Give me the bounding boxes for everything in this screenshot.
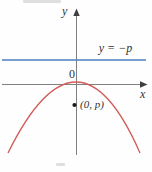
parabola-directrix-figure: y x 0 y = −p (0, p): [0, 0, 152, 172]
cropped-text-fragment-bottom: [56, 163, 65, 166]
focus-point-dot: [72, 103, 76, 107]
cropped-text-fragment-top: [23, 0, 61, 3]
y-axis-arrowhead-icon: [73, 9, 79, 17]
y-axis-label: y: [62, 5, 67, 17]
parabola-curve: [8, 82, 140, 153]
origin-label: 0: [64, 68, 75, 80]
figure-drawing: [0, 0, 152, 172]
focus-point-label: (0, p): [80, 99, 104, 110]
x-axis-label: x: [140, 88, 145, 100]
directrix-equation-label: y = −p: [93, 42, 138, 54]
